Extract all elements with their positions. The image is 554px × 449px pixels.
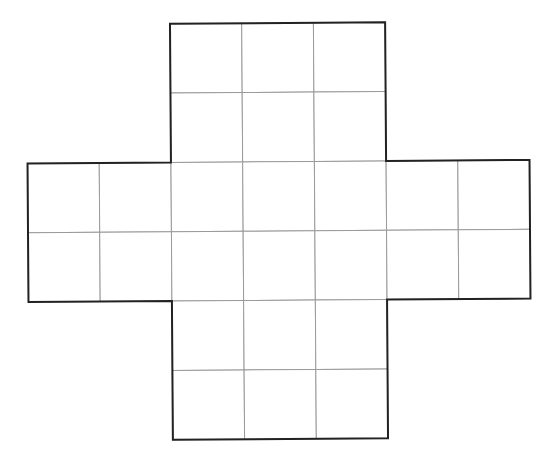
- grid-cell: [313, 22, 385, 92]
- grid-cell: [314, 92, 386, 162]
- grid-cell: [243, 161, 315, 231]
- grid-cell: [171, 162, 243, 232]
- grid-cell: [458, 229, 530, 299]
- grid-cell: [171, 231, 243, 301]
- cross-grid-diagram: [0, 0, 554, 449]
- grid-cells: [27, 21, 532, 440]
- grid-cell: [315, 300, 387, 370]
- grid-cell: [386, 160, 458, 230]
- grid-cell: [28, 163, 100, 233]
- grid-cell: [170, 93, 242, 163]
- grid-group: [27, 21, 532, 440]
- grid-cell: [170, 23, 242, 93]
- grid-cell: [316, 369, 388, 439]
- grid-cell: [244, 300, 316, 370]
- grid-cell: [172, 301, 244, 371]
- grid-cell: [172, 370, 244, 440]
- grid-cell: [28, 232, 100, 302]
- grid-cell: [458, 160, 530, 230]
- grid-cell: [387, 230, 459, 300]
- grid-cell: [99, 162, 171, 232]
- grid-cell: [243, 231, 315, 301]
- grid-cell: [242, 23, 314, 93]
- grid-cell: [315, 230, 387, 300]
- grid-cell: [100, 232, 172, 302]
- grid-cell: [244, 369, 316, 439]
- grid-cell: [242, 92, 314, 162]
- grid-cell: [314, 161, 386, 231]
